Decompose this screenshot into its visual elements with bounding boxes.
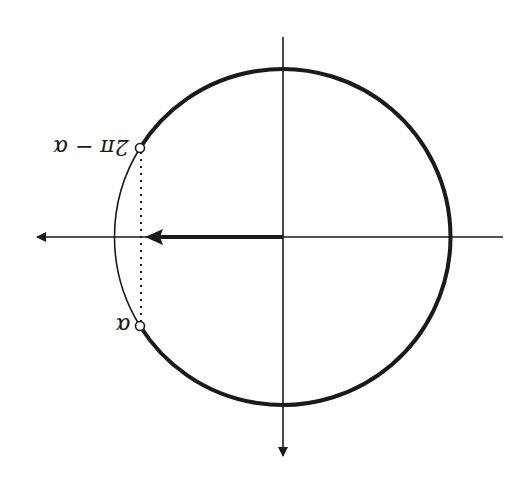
label-alpha: α (115, 313, 130, 338)
unit-circle-diagram: 2π − α α (0, 0, 525, 489)
label-two-pi-minus-alpha: 2π − α (53, 135, 130, 160)
point-two-pi-minus-alpha (136, 144, 145, 153)
point-alpha (136, 322, 145, 331)
